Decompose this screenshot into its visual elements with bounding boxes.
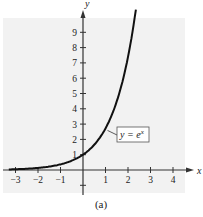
y-tick-label: 2 [72, 135, 77, 145]
x-tick-label: −1 [55, 175, 65, 185]
y-tick-label: 6 [72, 74, 77, 84]
x-axis-arrow-icon [186, 168, 194, 173]
y-tick-label: 3 [72, 120, 77, 130]
figure-caption: (a) [95, 198, 108, 211]
y-axis-label: y [84, 0, 90, 9]
y-tick-label: 7 [72, 58, 77, 68]
x-tick-label: −3 [10, 175, 20, 185]
x-tick-label: 3 [148, 175, 153, 185]
x-tick-label: 4 [171, 175, 176, 185]
y-axis-arrow-icon [81, 10, 86, 18]
plot-background [3, 18, 185, 193]
x-axis-label: x [196, 165, 202, 176]
y-tick-label: 5 [72, 89, 77, 99]
y-tick-label: 8 [72, 43, 77, 53]
x-tick-label: −2 [33, 175, 43, 185]
x-tick-label: 1 [103, 175, 108, 185]
y-tick-label: 9 [72, 28, 77, 38]
exponential-chart: xy −3−2−11234123456789 y = ex (a) [0, 0, 203, 217]
x-tick-label: 2 [126, 175, 131, 185]
y-tick-label: 4 [72, 104, 77, 114]
